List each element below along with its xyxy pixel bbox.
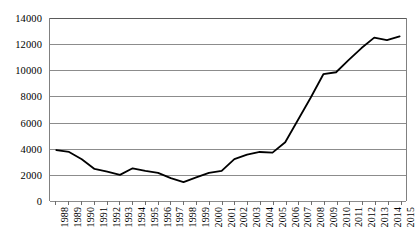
- x-tick-mark: [81, 201, 82, 205]
- x-tick-mark: [68, 201, 69, 205]
- x-tick-label: 2008: [315, 207, 326, 227]
- x-tick-mark: [107, 201, 108, 205]
- x-tick-label: 2000: [213, 207, 224, 227]
- y-axis: 02000400060008000100001200014000: [0, 0, 46, 246]
- x-tick-label: 1993: [123, 207, 134, 227]
- x-tick-mark: [132, 201, 133, 205]
- x-tick-mark: [337, 201, 338, 205]
- x-tick-mark: [222, 201, 223, 205]
- x-tick-mark: [247, 201, 248, 205]
- y-tick-label: 0: [37, 196, 42, 207]
- x-tick-mark: [286, 201, 287, 205]
- x-tick-label: 2002: [238, 207, 249, 227]
- x-tick-label: 1995: [149, 207, 160, 227]
- x-tick-label: 2005: [277, 207, 288, 227]
- y-tick-label: 12000: [15, 39, 42, 50]
- x-tick-label: 1991: [98, 207, 109, 227]
- x-tick-label: 2006: [290, 207, 301, 227]
- x-tick-label: 1999: [200, 207, 211, 227]
- x-tick-label: 2010: [341, 207, 352, 227]
- x-tick-label: 2015: [405, 207, 416, 227]
- x-tick-label: 2013: [379, 207, 390, 227]
- x-tick-label: 2003: [251, 207, 262, 227]
- y-tick-label: 10000: [15, 65, 42, 76]
- x-tick-label: 2012: [366, 207, 377, 227]
- x-tick-mark: [234, 201, 235, 205]
- x-tick-mark: [55, 201, 56, 205]
- x-tick-mark: [260, 201, 261, 205]
- x-tick-label: 1990: [85, 207, 96, 227]
- x-tick-label: 1996: [162, 207, 173, 227]
- x-tick-label: 2004: [264, 207, 275, 227]
- plot-area: [49, 18, 407, 201]
- x-tick-label: 1998: [187, 207, 198, 227]
- x-tick-mark: [311, 201, 312, 205]
- x-tick-label: 1992: [111, 207, 122, 227]
- x-tick-mark: [362, 201, 363, 205]
- x-tick-mark: [145, 201, 146, 205]
- x-tick-mark: [94, 201, 95, 205]
- x-tick-mark: [196, 201, 197, 205]
- x-tick-label: 1994: [136, 207, 147, 227]
- x-tick-label: 2014: [392, 207, 403, 227]
- x-tick-mark: [209, 201, 210, 205]
- y-tick-label: 8000: [21, 91, 42, 102]
- series-line: [50, 18, 406, 201]
- x-tick-label: 2007: [302, 207, 313, 227]
- y-tick-label: 4000: [21, 143, 42, 154]
- x-tick-label: 1988: [59, 207, 70, 227]
- x-tick-mark: [273, 201, 274, 205]
- x-tick-mark: [375, 201, 376, 205]
- x-tick-mark: [183, 201, 184, 205]
- x-axis: 1988198919901991199219931994199519961997…: [49, 201, 407, 246]
- x-tick-mark: [349, 201, 350, 205]
- x-tick-mark: [401, 201, 402, 205]
- y-tick-label: 14000: [15, 13, 42, 24]
- x-tick-label: 1997: [174, 207, 185, 227]
- y-tick-label: 2000: [21, 169, 42, 180]
- x-tick-mark: [119, 201, 120, 205]
- x-tick-label: 1989: [72, 207, 83, 227]
- x-tick-label: 2011: [353, 207, 364, 227]
- x-tick-mark: [324, 201, 325, 205]
- y-tick-label: 6000: [21, 117, 42, 128]
- line-chart: 02000400060008000100001200014000 1988198…: [0, 0, 418, 246]
- x-tick-mark: [158, 201, 159, 205]
- x-tick-label: 2001: [226, 207, 237, 227]
- x-tick-mark: [298, 201, 299, 205]
- x-tick-mark: [170, 201, 171, 205]
- x-tick-label: 2009: [328, 207, 339, 227]
- x-tick-mark: [388, 201, 389, 205]
